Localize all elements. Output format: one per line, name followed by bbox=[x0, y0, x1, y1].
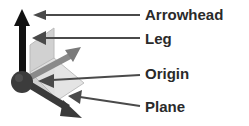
label-plane: Plane bbox=[145, 99, 185, 115]
callout-origin bbox=[38, 74, 140, 88]
label-origin: Origin bbox=[145, 66, 189, 82]
callout-arrowhead bbox=[33, 10, 140, 20]
vertical-arrowhead-icon bbox=[14, 9, 30, 26]
callout-plane bbox=[68, 90, 140, 106]
label-leg: Leg bbox=[145, 31, 172, 47]
origin-sphere bbox=[11, 71, 33, 93]
label-arrowhead: Arrowhead bbox=[145, 7, 223, 23]
vertical-axis-arrow bbox=[14, 9, 30, 78]
